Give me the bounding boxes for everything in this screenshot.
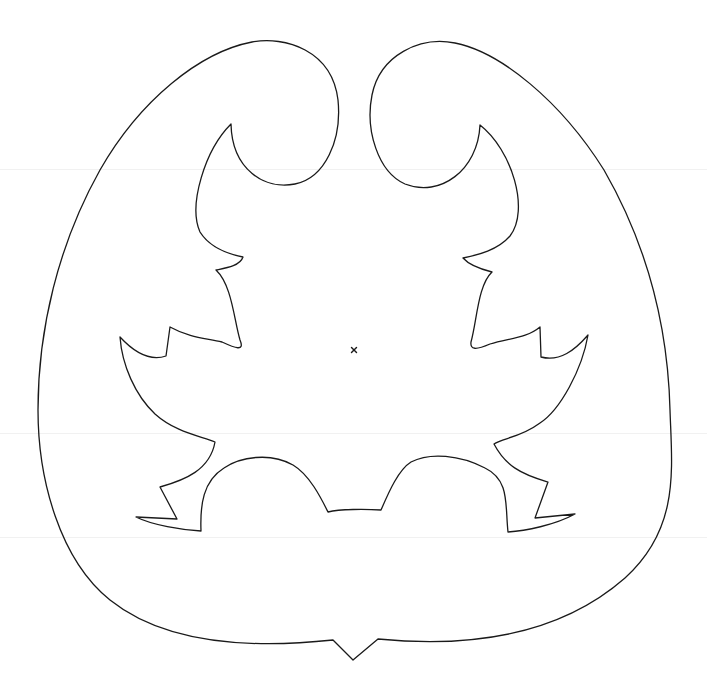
- outline-drawing: [0, 0, 707, 692]
- center-cross-icon: [352, 348, 357, 353]
